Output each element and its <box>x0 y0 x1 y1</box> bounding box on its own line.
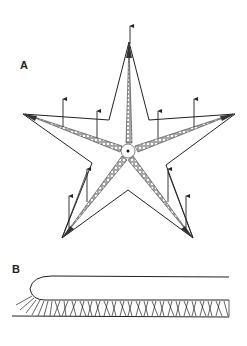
figure-canvas <box>0 0 247 346</box>
mouth-dot <box>127 150 130 153</box>
arm-dorsal-outline <box>30 276 229 300</box>
ambulacral-grooves <box>25 44 233 236</box>
substrate-line <box>12 316 229 317</box>
starfish-diagram <box>23 26 235 238</box>
tube-feet <box>16 296 229 317</box>
arm-side-view <box>12 276 229 317</box>
